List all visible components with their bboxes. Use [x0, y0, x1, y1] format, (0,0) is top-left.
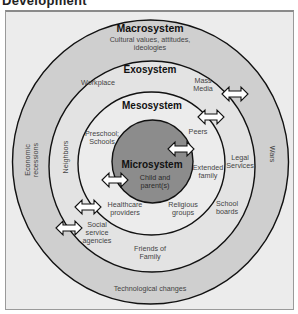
macrosystem-subtitle-2: ideologies — [134, 43, 167, 52]
economic-recessions-label-2: recessions — [31, 142, 40, 177]
legal-services-label-2: Services — [226, 161, 254, 170]
mass-media-label-2: Media — [193, 84, 213, 93]
friends-of-family-label-2: Family — [139, 252, 161, 261]
preschool-label-2: Schools — [89, 137, 115, 146]
macrosystem-title: Macrosystem — [116, 22, 183, 34]
neighbors-label: Neighbors — [61, 140, 70, 173]
mesosystem-title: Mesosystem — [122, 100, 182, 111]
exosystem-title: Exosystem — [124, 64, 177, 75]
social-service-label-3: agencies — [83, 236, 112, 245]
extended-family-label-2: family — [199, 171, 218, 180]
workplace-label: Workplace — [81, 78, 115, 87]
peers-label: Peers — [189, 127, 208, 136]
microsystem-subtitle-2: parent(s) — [141, 181, 170, 190]
technological-changes-label: Technological changes — [114, 284, 187, 293]
ecological-systems-diagram: Macrosystem Cultural values, attitudes, … — [0, 0, 298, 314]
religious-groups-label-2: groups — [172, 208, 194, 217]
wars-label: Wars — [268, 146, 277, 163]
healthcare-label-2: providers — [110, 208, 140, 217]
school-boards-label-2: boards — [216, 207, 238, 216]
microsystem-title: Microsystem — [121, 159, 182, 170]
